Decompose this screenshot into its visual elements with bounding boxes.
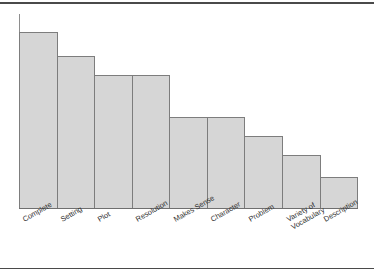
x-label-problem: Problem (245, 210, 283, 270)
page-top-rule (0, 2, 374, 4)
bar-makes-sense (169, 117, 208, 208)
x-label-makes-sense: Makes Sense (170, 210, 208, 270)
page-bottom-rule (0, 268, 374, 269)
x-label-setting: Setting (57, 210, 95, 270)
bar-character (207, 117, 246, 208)
bar-resolution (132, 75, 171, 208)
bar-problem (244, 136, 283, 208)
x-label-variety-of-vocabulary: Variety of Vocabulary (283, 210, 321, 270)
x-label-description: Description (320, 210, 358, 270)
bar-complete (19, 32, 58, 208)
x-label-complete: Complete (19, 210, 57, 270)
x-label-character: Character (207, 210, 245, 270)
x-label-text: Plot (96, 210, 112, 224)
bar-series (19, 14, 358, 208)
x-label-resolution: Resolution (132, 210, 170, 270)
x-label-plot: Plot (94, 210, 132, 270)
bar-chart: Complete Setting Plot Resolution Makes S… (0, 8, 374, 264)
bar-setting (57, 56, 96, 208)
x-axis-labels: Complete Setting Plot Resolution Makes S… (19, 210, 358, 270)
bar-plot (94, 75, 133, 208)
plot-area (19, 14, 358, 208)
